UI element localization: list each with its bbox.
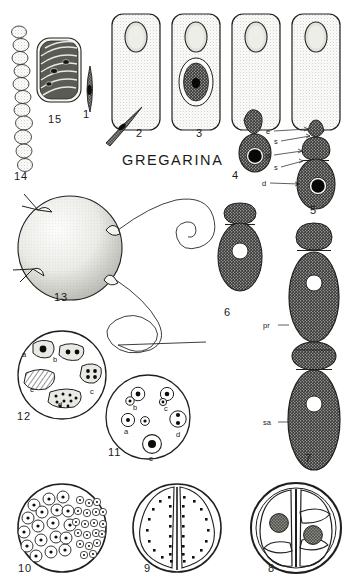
figure-14-number: 14 [14,170,28,182]
label-septum-lower: s [274,163,278,172]
figure-5-number: 5 [310,204,317,216]
gregarina-plate: 14 15 1 2 [0,0,353,588]
primite-body [289,252,339,342]
fig11-stage-b: b [133,403,137,412]
figure-4-number: 4 [232,169,239,181]
figure-8-gametocyst: 8 [251,483,341,574]
label-deutomerite: d [262,179,266,188]
figure-15-number: 15 [48,113,62,125]
label-septum-upper: s [274,137,278,146]
figure-9-gametocyst: 9 [133,484,221,574]
protomerite-shape [302,137,330,160]
label-epimerite: e [266,127,270,136]
figure-2-host-cell: 2 [106,14,160,146]
fig11-stage-d: d [176,430,180,439]
label-satellite: sa [263,418,272,427]
fig12-stage-d: d [58,400,62,409]
figure-2-number: 2 [136,127,143,139]
figure-10-number: 10 [18,562,32,574]
figure-3-number: 3 [196,127,203,139]
figure-7-number: 7 [305,452,312,464]
figure-9-number: 9 [144,562,151,574]
figure-8-number: 8 [268,562,275,574]
figure-6-number: 6 [224,306,231,318]
fig12-stage-e: e [30,385,34,394]
fig12-stage-b: b [53,355,57,364]
plate-title: GREGARINA [122,152,223,168]
label-protomerite: p [266,151,270,160]
figure-3-host-cell: 3 [172,14,220,139]
label-primite: pr [263,321,270,330]
fig11-stage-e: e [149,454,153,463]
satellite-body [288,370,340,470]
figure-11-number: 11 [108,446,121,458]
figure-1-number: 1 [83,108,90,120]
figure-13-number: 13 [54,291,68,303]
fig11-stage-c: c [164,404,168,413]
fig12-stage-c: c [90,387,94,396]
figure-12-number: 12 [17,410,31,422]
figure-3-trophozoite [179,58,213,106]
